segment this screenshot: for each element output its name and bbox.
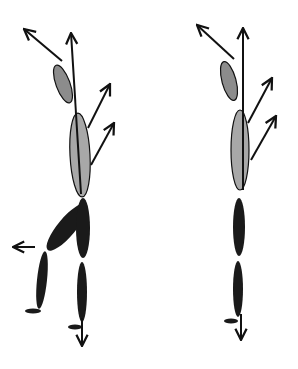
left-raised-foot-segment (25, 309, 41, 314)
right-torso-arrow-2-icon (251, 116, 276, 160)
right-shank-segment (233, 261, 243, 317)
right-head-arrow-icon (197, 25, 234, 59)
biomechanics-diagram (0, 0, 298, 369)
right-foot-segment (224, 319, 238, 324)
right-thigh-segment (233, 198, 245, 256)
left-stance-foot-segment (68, 325, 82, 330)
right-torso-segment (231, 110, 249, 190)
right-head-segment (217, 60, 241, 102)
left-torso-arrow-2-icon (91, 123, 114, 165)
right-figure (197, 25, 276, 340)
left-torso-arrow-1-icon (88, 84, 110, 128)
left-stance-thigh-segment (76, 198, 90, 258)
left-figure (13, 29, 114, 346)
left-head-arrow-icon (24, 29, 62, 61)
right-torso-arrow-1-icon (248, 78, 272, 123)
left-raised-shank-segment (34, 251, 50, 310)
left-stance-shank-segment (77, 262, 87, 322)
